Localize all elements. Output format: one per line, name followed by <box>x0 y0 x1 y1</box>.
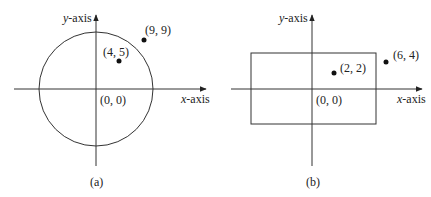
panel-caption-b: (b) <box>306 175 320 189</box>
y-axis-label: y-axis <box>278 11 308 25</box>
y-axis-label: y-axis <box>62 11 92 25</box>
point-2-2 <box>332 71 337 76</box>
diagram-canvas: y-axis x-axis (0, 0) (4, 5) (9, 9) (a) y… <box>0 0 431 197</box>
point-4-5 <box>117 59 122 64</box>
origin-label: (0, 0) <box>100 93 126 107</box>
point-label-4-5: (4, 5) <box>103 45 129 59</box>
x-axis-label: x-axis <box>180 92 210 106</box>
point-label-9-9: (9, 9) <box>145 23 171 37</box>
point-label-2-2: (2, 2) <box>340 61 366 75</box>
point-9-9 <box>142 38 147 43</box>
panel-a: y-axis x-axis (0, 0) (4, 5) (9, 9) (a) <box>14 11 210 189</box>
panel-caption-a: (a) <box>90 175 103 189</box>
x-axis-label: x-axis <box>396 92 426 106</box>
panel-b: y-axis x-axis (0, 0) (2, 2) (6, 4) (b) <box>231 11 426 189</box>
origin-label: (0, 0) <box>316 93 342 107</box>
point-6-4 <box>384 60 389 65</box>
point-label-6-4: (6, 4) <box>393 48 419 62</box>
